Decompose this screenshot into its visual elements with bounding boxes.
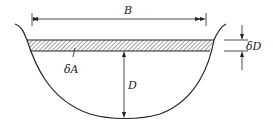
- label-delta-d: δD: [246, 40, 262, 53]
- d-arrowhead-top: [122, 51, 126, 57]
- b-arrowhead-left: [32, 17, 38, 21]
- label-b: B: [123, 4, 132, 17]
- b-arrowhead-right: [200, 17, 206, 21]
- hatched-strip: [27, 40, 214, 51]
- label-d: D: [127, 79, 137, 92]
- dd-arrowhead-top: [240, 34, 244, 40]
- d-arrowhead-bottom: [122, 112, 126, 118]
- label-delta-a: δA: [64, 63, 79, 76]
- channel-diagram: B δD δA D: [0, 0, 273, 122]
- dd-arrowhead-bottom: [240, 51, 244, 57]
- channel-bed-curve: [15, 24, 226, 119]
